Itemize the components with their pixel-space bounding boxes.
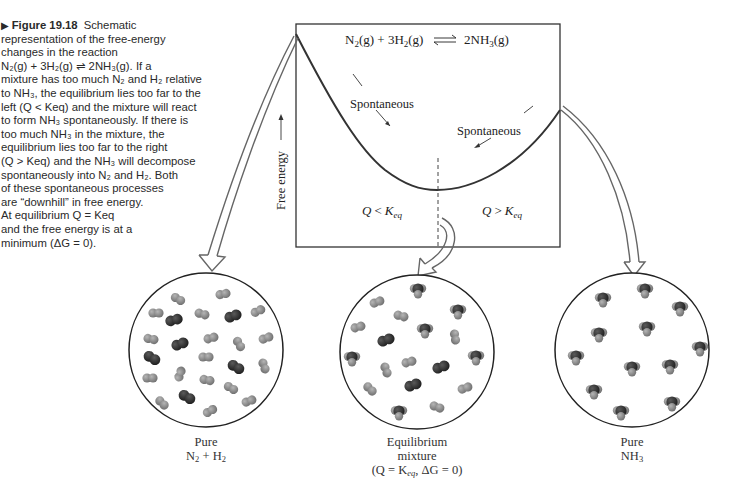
y-axis: Free energy	[274, 114, 288, 210]
panel-equilibrium-mixture	[340, 275, 494, 429]
arrow-to-pure-product-icon	[561, 106, 645, 276]
label-pure-product: Pure NH3	[587, 435, 677, 463]
reaction-equation: N2(g) + 3H2(g)	[345, 32, 423, 49]
reaction-product: 2NH3(g)	[464, 32, 509, 49]
label-line: Pure	[587, 435, 677, 449]
free-energy-curve	[296, 34, 560, 190]
panel-pure-product	[555, 273, 709, 427]
free-energy-diagram: N2(g) + 3H2(g) 2NH3(g) Spontaneous Spont…	[0, 0, 730, 491]
label-line: mixture	[347, 449, 487, 463]
container-circle	[555, 273, 709, 427]
equilibrium-arrows-icon	[434, 35, 456, 45]
label-equilibrium-mixture: Equilibrium mixture (Q = Keq, ΔG = 0)	[347, 435, 487, 477]
label-line: N2 + H2	[156, 449, 256, 463]
label-line: (Q = Keq, ΔG = 0)	[347, 463, 487, 477]
label-line: Pure	[156, 435, 256, 449]
tick-mark	[353, 74, 362, 86]
label-pure-reactants: Pure N2 + H2	[156, 435, 256, 463]
container-circle	[129, 273, 283, 427]
region-left-label: Q<Keq	[362, 203, 402, 220]
panel-pure-reactants	[129, 273, 283, 427]
y-axis-arrow-icon	[279, 114, 284, 120]
tick-mark	[524, 106, 533, 113]
arrowhead-icon	[474, 143, 480, 148]
y-axis-label: Free energy	[274, 150, 288, 210]
label-line: Equilibrium	[347, 435, 487, 449]
spontaneous-right-label: Spontaneous	[457, 124, 521, 138]
label-line: NH3	[587, 449, 677, 463]
spontaneous-left-label: Spontaneous	[350, 97, 414, 111]
region-right-label: Q>Keq	[482, 203, 522, 220]
